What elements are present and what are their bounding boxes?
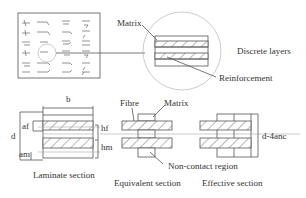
fibre-block-1 [122,121,172,130]
effective-section: d-4anc Effective section [200,114,287,188]
magnify-circle-small [38,44,56,62]
effective-fibre-2 [200,138,251,148]
fibre-block-2 [122,138,172,148]
dim-b: b [66,94,71,104]
laminate-fibre-layer-1 [43,121,93,130]
composite-laminate-diagram: Matrix Reinforcement Discrete layers b d… [0,0,306,198]
effective-fibre-1 [200,121,251,130]
magnified-layers: Matrix Reinforcement Discrete layers [117,12,291,90]
dim-d-4anc: d-4anc [262,131,287,141]
matrix-block-top [138,114,155,121]
laminate-fibre-layer-2 [43,138,93,148]
matrix-leader [142,25,157,40]
fibre-leader [132,108,134,121]
matrix-label: Matrix [117,18,142,28]
laminate-section: b d af am hf hm Laminate section [11,94,113,180]
dim-hm: hm [101,142,113,152]
effective-caption: Effective section [202,178,263,188]
dim-d: d [11,131,16,141]
dim-am: am [19,149,30,159]
matrix-label-eq: Matrix [164,98,189,108]
laminate-caption: Laminate section [33,170,95,180]
reinforcement-label: Reinforcement [219,73,273,83]
dim-af: af [22,121,29,131]
reinforcement-layer-2 [155,53,208,59]
fibre-label: Fibre [120,98,139,108]
dim-hf: hf [101,123,109,133]
non-contact-label: Non-contact region [168,161,238,171]
fibre-marks [22,20,90,75]
reinforcement-layer-1 [155,41,208,47]
non-contact-leader [150,152,163,164]
equivalent-caption: Equivalent section [114,178,181,188]
discrete-layers-label: Discrete layers [237,46,291,56]
matrix-block-bottom [138,148,155,157]
